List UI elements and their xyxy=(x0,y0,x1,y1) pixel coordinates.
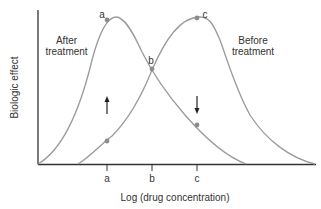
up-arrow-icon xyxy=(105,96,110,114)
point-label-c: c xyxy=(200,9,210,20)
marker-a-low xyxy=(105,139,110,144)
before-label-line2: treatment xyxy=(228,46,278,57)
marker-b-intersection xyxy=(150,67,155,72)
x-tick-label-c: c xyxy=(191,173,203,184)
x-tick-label-a: a xyxy=(101,173,113,184)
x-axis-label: Log (drug concentration) xyxy=(100,192,250,203)
after-label-line2: treatment xyxy=(44,46,89,57)
y-axis-label: Biologic effect xyxy=(9,46,20,130)
before-label-line1: Before xyxy=(228,35,278,46)
point-label-a: a xyxy=(97,9,107,20)
x-tick-label-b: b xyxy=(146,173,158,184)
marker-c-peak xyxy=(195,16,200,21)
before-treatment-curve xyxy=(78,17,315,164)
after-treatment-label: After treatment xyxy=(44,35,89,57)
point-label-b: b xyxy=(145,55,157,66)
before-treatment-label: Before treatment xyxy=(228,35,278,57)
dose-response-chart xyxy=(0,0,321,209)
down-arrow-icon xyxy=(195,96,200,114)
marker-c-low xyxy=(195,123,200,128)
after-label-line1: After xyxy=(44,35,89,46)
